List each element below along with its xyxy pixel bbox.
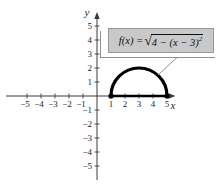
radicand: 4 − (x − 3)2 (151, 34, 203, 48)
y-axis-arrow (94, 12, 99, 19)
leader-line (158, 58, 177, 76)
endpoint-dot-right (164, 93, 169, 98)
function-graph-figure: y x −5−4−3−2−11234554321−1−2−3−4−5 f(x) … (0, 0, 224, 186)
radicand-text: 4 − (x − 3) (152, 36, 199, 47)
function-label-box: f(x) = √ 4 − (x − 3)2 (108, 28, 214, 53)
exponent: 2 (199, 35, 203, 43)
semicircle-curve (111, 68, 167, 96)
endpoint-dot-left (108, 93, 113, 98)
function-formula-prefix: f(x) = (119, 35, 143, 46)
